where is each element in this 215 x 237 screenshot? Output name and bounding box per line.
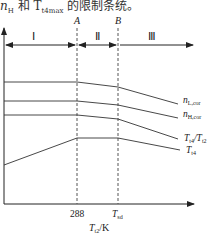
label-tt4-over-tt2: Tt4/Tt2 [184, 133, 207, 144]
region-1-label: Ⅰ [32, 30, 35, 42]
curve-tt4-over-tt2 [4, 115, 178, 139]
label-n-l-cor: nL,cor [183, 95, 201, 106]
diagram: A B Ⅰ Ⅱ Ⅲ nL,cor nH,cor Tt4/Tt2 Tt4 288 … [0, 0, 215, 237]
curve-tt4 [4, 138, 180, 165]
label-n-h-cor: nH,cor [183, 109, 201, 120]
boundary-b-label: B [115, 15, 121, 26]
x-axis-label: Tt2/K [89, 222, 110, 234]
label-tt4: Tt4 [186, 145, 196, 156]
boundary-a-label: A [73, 15, 81, 26]
x-tick-tsd: Tsd [112, 209, 123, 220]
region-3-label: Ⅲ [148, 30, 156, 42]
x-tick-288: 288 [70, 209, 85, 219]
region-2-label: Ⅱ [95, 30, 100, 42]
